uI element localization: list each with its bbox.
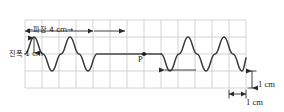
scale-vertical-label: 1 cm	[258, 80, 275, 89]
scale-horizontal-bar	[229, 90, 246, 99]
point-p-label: P	[138, 56, 143, 64]
scale-horizontal-label: 1 cm	[246, 98, 263, 107]
wave-diagram-figure: ←파장 4 cm→ 진폭 1 cm P 1 cm 1 cm	[0, 0, 284, 112]
wavelength-label: ←파장 4 cm→	[27, 26, 73, 33]
amplitude-label: 진폭 1 cm	[9, 50, 43, 57]
scale-vertical-bar	[248, 71, 257, 88]
